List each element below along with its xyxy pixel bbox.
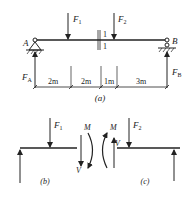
dimension-label-4: 3m (136, 77, 147, 86)
dimension-label-2: 2m (81, 77, 92, 86)
load-f2-c-label: F2 (132, 120, 142, 131)
caption-b: (b) (40, 177, 50, 186)
load-f1-b-label: F1 (53, 120, 63, 131)
beam-diagram: A B F1 F2 1 1 FA FB (0, 0, 192, 200)
caption-c: (c) (141, 177, 150, 186)
caption-a: (a) (95, 93, 106, 103)
figure-c: F2 V M (c) (103, 118, 181, 186)
reaction-fa-label: FA (21, 72, 33, 83)
section-label-bottom: 1 (103, 42, 107, 51)
support-a-label: A (22, 38, 29, 48)
load-f1-label: F1 (72, 14, 82, 25)
figure-b: F1 V M (b) (20, 118, 93, 186)
reaction-fb-label: FB (171, 67, 182, 78)
support-b-label: B (172, 36, 178, 46)
moment-arc-m-c (103, 133, 108, 168)
dimension-label-1: 2m (48, 77, 59, 86)
dimension-label-3: 1m (104, 77, 115, 86)
load-f2-label: F2 (117, 14, 127, 25)
moment-m-b-label: M (83, 123, 92, 132)
section-label-top: 1 (103, 30, 107, 39)
moment-m-c-label: M (109, 123, 118, 132)
moment-arc-m-b (88, 133, 93, 168)
shear-v-b-label: V (76, 166, 82, 175)
figure-a: A B F1 F2 1 1 FA FB (21, 13, 182, 103)
shear-v-c-label: V (115, 139, 121, 148)
